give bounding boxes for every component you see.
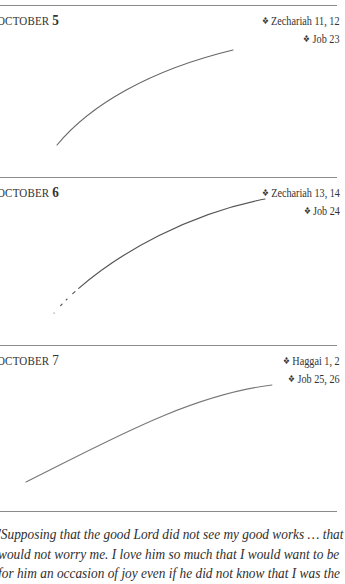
quote-line: 'Supposing that the good Lord did not se… bbox=[0, 525, 320, 545]
pencil-stroke bbox=[54, 199, 265, 313]
pencil-stroke bbox=[57, 50, 233, 145]
quote-line: would not worry me. I love him so much t… bbox=[0, 545, 320, 565]
divider-rule bbox=[0, 511, 337, 512]
pencil-stroke bbox=[26, 385, 272, 482]
quote-block: 'Supposing that the good Lord did not se… bbox=[0, 525, 320, 584]
quote-line: for him an occasion of joy even if he di… bbox=[0, 564, 320, 584]
